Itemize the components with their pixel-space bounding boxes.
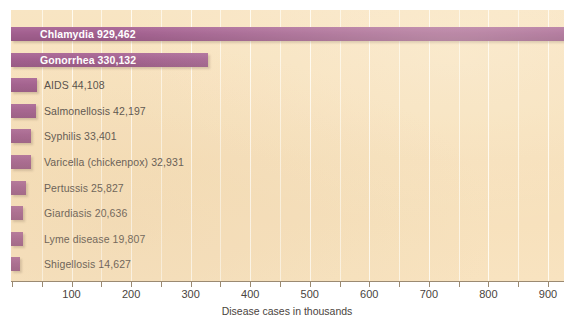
bar-row: Gonorrhea 330,132: [11, 53, 564, 67]
bar-lyme-disease: [11, 232, 23, 246]
x-axis-tick-label: 100: [62, 288, 80, 300]
bar-giardiasis: [11, 206, 23, 220]
bar-label: Pertussis 25,827: [44, 182, 124, 194]
x-axis-tick-label: 200: [122, 288, 140, 300]
x-axis-tick: [459, 281, 460, 287]
bar-row: Chlamydia 929,462: [11, 27, 564, 41]
bar-row: Pertussis 25,827: [11, 181, 564, 195]
x-axis-tick: [12, 281, 13, 287]
x-axis-tick: [280, 281, 281, 287]
x-axis-tick: [548, 281, 549, 287]
x-axis-tick-label: 900: [539, 288, 557, 300]
bar-label: Varicella (chickenpox) 32,931: [44, 156, 184, 168]
x-axis-title: Disease cases in thousands: [0, 305, 574, 317]
bar-shigellosis: [11, 257, 20, 271]
x-axis-tick: [72, 281, 73, 287]
bar-label: Shigellosis 14,627: [44, 258, 131, 270]
x-axis-tick: [161, 281, 162, 287]
x-axis-tick-label: 300: [181, 288, 199, 300]
bar-row: Giardiasis 20,636: [11, 206, 564, 220]
bar-row: AIDS 44,108: [11, 78, 564, 92]
x-axis-line: [11, 281, 564, 282]
bar-row: Varicella (chickenpox) 32,931: [11, 155, 564, 169]
x-axis-tick: [488, 281, 489, 287]
plot-area: Chlamydia 929,462Gonorrhea 330,132AIDS 4…: [11, 10, 564, 281]
x-axis-tick: [101, 281, 102, 287]
bar-salmonellosis: [11, 104, 36, 118]
x-axis-tick: [220, 281, 221, 287]
bar-label: Salmonellosis 42,197: [44, 105, 146, 117]
bar-syphilis: [11, 129, 31, 143]
bar-label: Giardiasis 20,636: [44, 207, 127, 219]
x-axis-tick: [429, 281, 430, 287]
x-axis-tick: [369, 281, 370, 287]
x-axis-tick: [250, 281, 251, 287]
x-axis-tick: [191, 281, 192, 287]
bar-varicella-chickenpox: [11, 155, 31, 169]
bar-label: Gonorrhea 330,132: [40, 54, 136, 66]
x-axis-tick: [518, 281, 519, 287]
x-axis-tick: [310, 281, 311, 287]
bar-label: Chlamydia 929,462: [40, 28, 136, 40]
bar-row: Lyme disease 19,807: [11, 232, 564, 246]
bar-row: Syphilis 33,401: [11, 129, 564, 143]
bar-label: Lyme disease 19,807: [44, 233, 145, 245]
x-axis-tick: [399, 281, 400, 287]
bar-label: Syphilis 33,401: [44, 130, 117, 142]
x-axis-tick-label: 700: [420, 288, 438, 300]
bar-row: Shigellosis 14,627: [11, 257, 564, 271]
x-axis-tick-label: 800: [479, 288, 497, 300]
bar-row: Salmonellosis 42,197: [11, 104, 564, 118]
x-axis-tick-label: 600: [360, 288, 378, 300]
x-axis-tick: [42, 281, 43, 287]
bar-label: AIDS 44,108: [44, 79, 105, 91]
bar-chart-figure: Chlamydia 929,462Gonorrhea 330,132AIDS 4…: [0, 0, 574, 323]
x-axis-tick-label: 400: [241, 288, 259, 300]
x-axis-tick: [340, 281, 341, 287]
x-axis-tick-label: 500: [301, 288, 319, 300]
x-axis-tick: [131, 281, 132, 287]
bar-pertussis: [11, 181, 26, 195]
bar-aids: [11, 78, 37, 92]
